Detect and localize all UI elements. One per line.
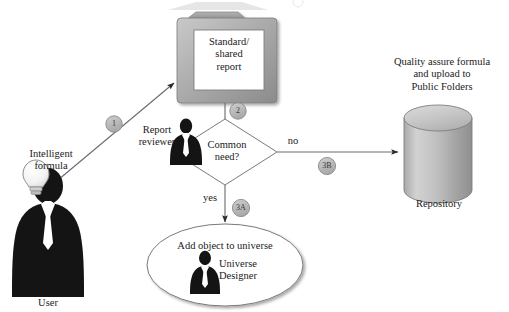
repository-annotation: Quality assure formula and upload to Pub… xyxy=(377,56,507,93)
step-badge-1-text: 1 xyxy=(104,119,124,128)
universe-designer-label: Universe Designer xyxy=(219,258,281,283)
decision-node-label: Common need? xyxy=(196,139,258,164)
edge-label-no: no xyxy=(283,135,303,147)
step-badge-2-text: 2 xyxy=(228,106,248,115)
step-badge-3b-text: 3B xyxy=(317,161,337,170)
cylinder-database-icon xyxy=(404,105,472,203)
intelligent-formula-label: Intelligent formula xyxy=(8,148,94,173)
reviewer-label: Report reviewer xyxy=(131,124,183,149)
user-label: User xyxy=(24,297,72,309)
edge-label-yes: yes xyxy=(199,192,221,204)
repository-label: Repository xyxy=(408,198,470,210)
report-node-label: Standard/ shared report xyxy=(194,36,264,73)
user-silhouette-icon xyxy=(12,168,84,297)
page-edge-artifact xyxy=(168,0,303,10)
step-badge-3a-text: 3A xyxy=(231,203,251,212)
universe-label: Add object to universe xyxy=(155,240,295,252)
diagram-canvas: Standard/ shared report Common need? Rep… xyxy=(0,0,509,312)
